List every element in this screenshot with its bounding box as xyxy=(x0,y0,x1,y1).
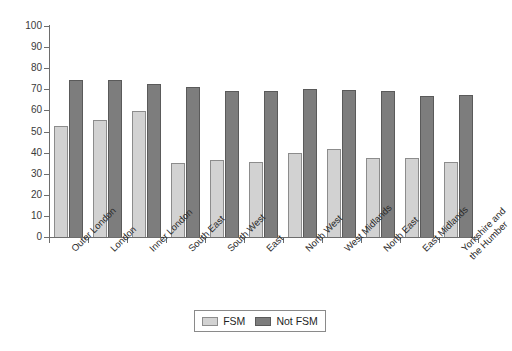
y-tick-label: 100 xyxy=(2,21,42,31)
bar-fsm xyxy=(288,153,302,237)
y-tick-label: 50 xyxy=(2,127,42,137)
y-tick-label: 10 xyxy=(2,211,42,221)
legend-swatch-fsm-icon xyxy=(202,317,218,326)
bar-not-fsm xyxy=(342,90,356,237)
legend-swatch-not-fsm-icon xyxy=(255,317,271,326)
bar-fsm xyxy=(54,126,68,237)
bars-layer xyxy=(49,26,478,237)
legend-label-not-fsm: Not FSM xyxy=(276,315,317,327)
y-tick-label: 60 xyxy=(2,105,42,115)
bar-not-fsm xyxy=(420,96,434,237)
legend-item-not-fsm: Not FSM xyxy=(255,315,317,327)
bar-not-fsm xyxy=(225,91,239,237)
y-tick-label: 30 xyxy=(2,169,42,179)
bar-not-fsm xyxy=(147,84,161,237)
bar-not-fsm xyxy=(69,80,83,237)
chart-legend: FSM Not FSM xyxy=(194,310,326,332)
bar-not-fsm xyxy=(264,91,278,237)
bar-not-fsm xyxy=(303,89,317,237)
legend-item-fsm: FSM xyxy=(202,315,245,327)
y-tick-label: 40 xyxy=(2,148,42,158)
y-tick-label: 20 xyxy=(2,190,42,200)
x-axis-category-labels: Outer LondonLondonInner LondonSouth East… xyxy=(0,238,488,318)
y-tick-label: 80 xyxy=(2,63,42,73)
y-tick-label: 70 xyxy=(2,84,42,94)
legend-label-fsm: FSM xyxy=(223,315,245,327)
bar-fsm xyxy=(132,111,146,237)
y-tick-label: 90 xyxy=(2,42,42,52)
